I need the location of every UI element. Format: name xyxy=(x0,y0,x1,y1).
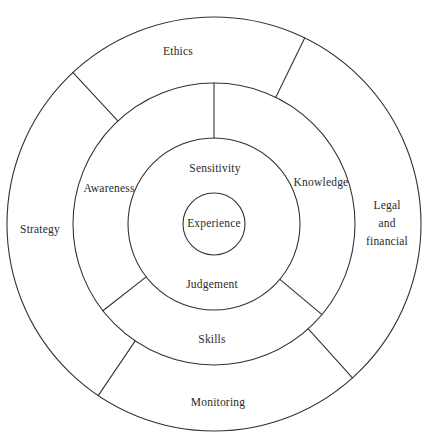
segment-label-awareness: Awareness xyxy=(83,180,134,198)
segment-label-knowledge: Knowledge xyxy=(294,174,349,192)
legal-line-3: financial xyxy=(352,233,422,251)
divider-middle-skills-awareness xyxy=(103,277,146,311)
segment-label-monitoring: Monitoring xyxy=(191,394,245,412)
segment-label-ethics: Ethics xyxy=(163,43,193,61)
divider-outer-legal-monitoring xyxy=(308,329,352,378)
segment-label-judgement: Judgement xyxy=(186,276,238,294)
divider-outer-ethics-legal xyxy=(276,38,305,97)
legal-line-2: and xyxy=(352,215,422,233)
segment-label-skills: Skills xyxy=(198,331,225,349)
segment-label-sensitivity: Sensitivity xyxy=(189,160,240,178)
divider-outer-monitoring-strategy xyxy=(98,341,135,396)
legal-line-1: Legal xyxy=(352,197,422,215)
divider-middle-knowledge-skills xyxy=(280,279,322,314)
segment-label-strategy: Strategy xyxy=(20,221,60,239)
segment-label-experience: Experience xyxy=(187,215,241,233)
concentric-ring-diagram: Ethics Legal and financial Monitoring St… xyxy=(0,0,430,447)
divider-outer-strategy-ethics xyxy=(73,72,118,121)
segment-label-legal-and-financial: Legal and financial xyxy=(352,197,422,250)
